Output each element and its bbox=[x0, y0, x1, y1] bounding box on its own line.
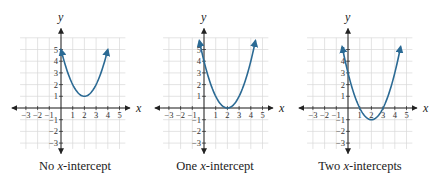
y-tick-label: −3 bbox=[336, 138, 345, 148]
graph-no-x-intercept: −3−2−112345−3−2−112345xy bbox=[12, 10, 142, 153]
x-tick-label: −3 bbox=[308, 110, 317, 120]
y-tick-label: −1 bbox=[49, 115, 58, 125]
x-tick-label: −2 bbox=[33, 110, 42, 120]
y-tick-label: −3 bbox=[192, 138, 201, 148]
y-tick-label: 3 bbox=[341, 68, 345, 78]
x-tick-label: 2 bbox=[225, 110, 229, 120]
x-tick-label: 2 bbox=[369, 110, 373, 120]
x-tick-label: −3 bbox=[164, 110, 173, 120]
y-axis-label: y bbox=[200, 10, 207, 24]
y-tick-label: −3 bbox=[49, 138, 58, 148]
grid bbox=[20, 38, 125, 149]
caption-two-x-intercepts: Two x-intercepts bbox=[318, 159, 402, 173]
x-tick-label: −3 bbox=[21, 110, 30, 120]
y-tick-label: −1 bbox=[192, 115, 201, 125]
x-tick-label: 4 bbox=[106, 110, 111, 120]
graph-two-x-intercepts: −3−2−112345−3−2−112345xy bbox=[299, 10, 429, 153]
x-tick-label: 3 bbox=[237, 110, 241, 120]
y-tick-label: 1 bbox=[54, 91, 58, 101]
grid bbox=[307, 38, 412, 149]
y-axis-label: y bbox=[344, 10, 351, 24]
x-tick-label: 4 bbox=[393, 110, 398, 120]
x-tick-label: 1 bbox=[71, 110, 75, 120]
x-axis-label: x bbox=[135, 101, 142, 115]
x-tick-label: 5 bbox=[117, 110, 121, 120]
y-tick-label: −2 bbox=[49, 126, 58, 136]
x-axis-label: x bbox=[422, 101, 429, 115]
y-tick-label: 2 bbox=[54, 80, 58, 90]
y-tick-label: 5 bbox=[54, 45, 58, 55]
x-tick-label: 1 bbox=[214, 110, 218, 120]
figure: −3−2−112345−3−2−112345xy −3−2−112345−3−2… bbox=[0, 0, 432, 181]
y-tick-label: −2 bbox=[192, 126, 201, 136]
y-tick-label: 3 bbox=[54, 68, 58, 78]
caption-no-x-intercept: No x-intercept bbox=[39, 159, 111, 173]
y-tick-label: −2 bbox=[336, 126, 345, 136]
y-tick-label: 3 bbox=[197, 68, 201, 78]
y-tick-label: 1 bbox=[197, 91, 201, 101]
x-tick-label: 2 bbox=[82, 110, 86, 120]
caption-one-x-intercept: One x-intercept bbox=[176, 159, 254, 173]
y-tick-label: 1 bbox=[341, 91, 345, 101]
y-tick-label: 2 bbox=[341, 80, 345, 90]
graph-one-x-intercept: −3−2−112345−3−2−112345xy bbox=[155, 10, 285, 153]
x-tick-label: −2 bbox=[320, 110, 329, 120]
y-axis-label: y bbox=[57, 10, 64, 24]
x-tick-label: −2 bbox=[176, 110, 185, 120]
x-tick-label: 4 bbox=[249, 110, 254, 120]
y-tick-label: −1 bbox=[336, 115, 345, 125]
x-tick-label: 3 bbox=[94, 110, 98, 120]
x-tick-label: 5 bbox=[260, 110, 264, 120]
y-tick-label: 2 bbox=[197, 80, 201, 90]
x-axis-label: x bbox=[278, 101, 285, 115]
x-tick-label: 5 bbox=[404, 110, 408, 120]
